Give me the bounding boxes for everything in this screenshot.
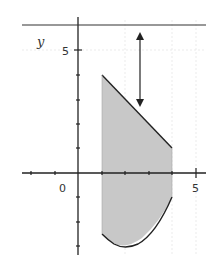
x-tick-label-5: 5 [192,182,199,195]
origin-label: 0 [59,182,66,195]
double-arrow-icon [136,32,144,107]
y-tick-label-5: 5 [62,45,69,58]
region-diagram: y 5 0 5 [0,0,224,266]
y-axis-label: y [36,34,45,49]
